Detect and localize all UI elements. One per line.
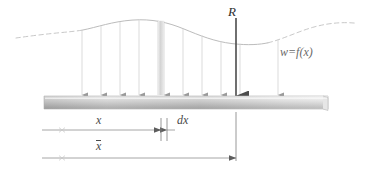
beam: [44, 96, 328, 111]
load-curve-group: [16, 20, 356, 45]
distance-x-label: x: [96, 113, 101, 128]
resultant-label: R: [228, 4, 236, 20]
centroid-distance-glyph: x: [96, 140, 101, 152]
load-curve-solid: [82, 20, 268, 45]
element-width-label: dx: [177, 113, 188, 128]
dimension-x-group: [42, 118, 175, 141]
load-curve-dashed-left: [16, 30, 82, 38]
distributed-load-arrows: [82, 20, 278, 95]
load-function-label: w=f(x): [280, 45, 313, 60]
load-distribution-figure: [0, 0, 365, 177]
centroid-distance-label: x: [96, 140, 101, 152]
differential-element-strip: [158, 21, 164, 95]
dimension-xbar-group: [42, 112, 236, 161]
load-curve-dashed-right: [268, 23, 356, 43]
